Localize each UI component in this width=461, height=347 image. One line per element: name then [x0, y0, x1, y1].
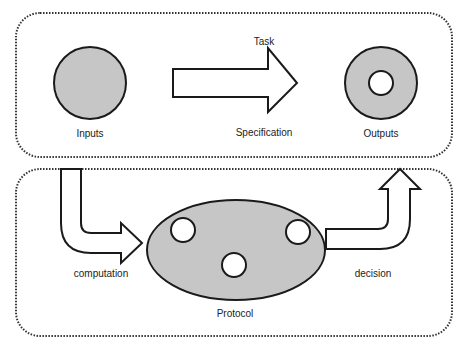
protocol-party-2-icon	[286, 220, 310, 244]
inputs-circle-icon	[54, 47, 126, 119]
outputs-donut-hole	[369, 71, 393, 95]
diagram-canvas	[0, 0, 461, 347]
protocol-label: Protocol	[217, 308, 254, 320]
inputs-label: Inputs	[76, 128, 103, 140]
task-arrow-icon	[173, 48, 297, 112]
decision-arrow-icon	[326, 169, 420, 249]
decision-label: decision	[355, 268, 392, 280]
specification-label: Specification	[236, 127, 293, 139]
computation-label: computation	[74, 268, 128, 280]
protocol-party-1-icon	[171, 218, 195, 242]
protocol-party-3-icon	[222, 253, 246, 277]
computation-arrow-icon	[61, 169, 142, 263]
task-label: Task	[254, 36, 275, 48]
outputs-label: Outputs	[363, 128, 398, 140]
protocol-ellipse-icon	[147, 200, 325, 300]
